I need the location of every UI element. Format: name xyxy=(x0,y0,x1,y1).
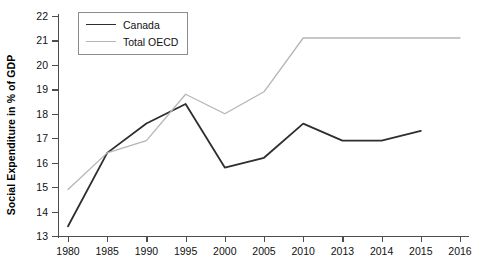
legend-item-canada: Canada xyxy=(86,16,178,33)
x-axis-tick-label: 1980 xyxy=(56,245,79,257)
legend-line-swatch-canada xyxy=(86,24,116,25)
x-axis-tick-label: 1985 xyxy=(96,245,119,257)
y-axis-tick xyxy=(52,114,58,115)
legend-line-swatch-total-oecd xyxy=(86,41,116,42)
y-axis-tick xyxy=(52,212,58,213)
y-axis-tick xyxy=(52,40,58,41)
x-axis-tick xyxy=(146,236,147,242)
y-axis-tick xyxy=(52,138,58,139)
y-axis-tick xyxy=(52,163,58,164)
series-line-total-oecd xyxy=(68,38,460,190)
x-axis-tick xyxy=(264,236,265,242)
x-axis-tick-label: 2014 xyxy=(370,245,393,257)
y-axis-tick xyxy=(52,187,58,188)
y-axis-tick xyxy=(52,65,58,66)
x-axis-tick xyxy=(107,236,108,242)
x-axis-tick-label: 2013 xyxy=(331,245,354,257)
x-axis-tick xyxy=(460,236,461,242)
chart-legend: Canada Total OECD xyxy=(78,12,188,55)
x-axis-tick-label: 2010 xyxy=(292,245,315,257)
x-axis-tick-label: 1995 xyxy=(174,245,197,257)
x-axis-tick-label: 2016 xyxy=(448,245,471,257)
x-axis-tick xyxy=(68,236,69,242)
y-axis-tick xyxy=(52,89,58,90)
x-axis-tick-label: 1990 xyxy=(135,245,158,257)
x-axis-tick xyxy=(382,236,383,242)
x-axis-tick-label: 2000 xyxy=(213,245,236,257)
y-axis-tick xyxy=(52,16,58,17)
x-axis-tick xyxy=(186,236,187,242)
x-axis-tick xyxy=(342,236,343,242)
x-axis-tick-label: 2015 xyxy=(409,245,432,257)
legend-label-total-oecd: Total OECD xyxy=(123,36,178,48)
x-axis-tick xyxy=(421,236,422,242)
legend-label-canada: Canada xyxy=(123,19,160,31)
x-axis-tick xyxy=(303,236,304,242)
series-lines xyxy=(0,0,487,270)
line-chart: Social Expenditure in % of GDP 131415161… xyxy=(0,0,487,270)
x-axis-tick-label: 2005 xyxy=(252,245,275,257)
series-line-canada xyxy=(68,104,421,226)
legend-item-total-oecd: Total OECD xyxy=(86,33,178,50)
x-axis-tick xyxy=(225,236,226,242)
y-axis-tick xyxy=(52,236,58,237)
